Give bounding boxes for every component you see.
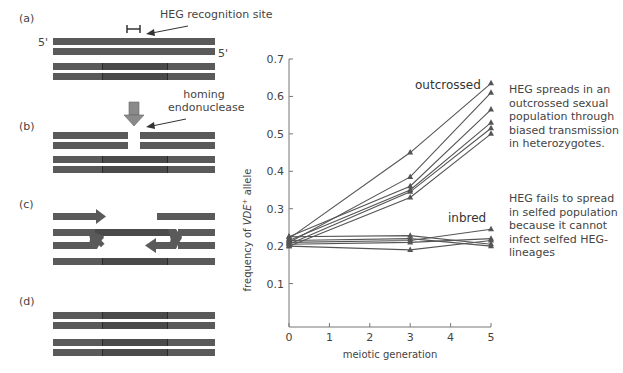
- y-axis-title-prefix: frequency of: [242, 225, 253, 291]
- note-line: HEG fails to spread: [509, 192, 623, 206]
- note-line: population through: [509, 110, 623, 124]
- note-line: because it cannot: [509, 219, 623, 233]
- data-point-outcrossed-4: [488, 119, 494, 125]
- note-line: HEG spreads in an: [509, 83, 623, 97]
- data-point-outcrossed-5: [488, 125, 494, 131]
- note-line: in selfed population: [509, 206, 623, 220]
- note-line: infect selfed HEG-: [509, 233, 623, 247]
- data-point-outcrossed-3: [488, 106, 494, 112]
- y-tick-label: 0.1: [267, 278, 285, 291]
- note-line: outcrossed sexual: [509, 97, 623, 111]
- x-tick-label: 2: [366, 331, 373, 344]
- y-axis-title: frequency of VDE+ allele: [241, 169, 253, 292]
- series-line-outcrossed-6: [289, 134, 491, 246]
- note-outcrossed: HEG spreads in an outcrossed sexual popu…: [509, 83, 623, 151]
- data-point-outcrossed-1: [488, 80, 494, 86]
- x-tick-label: 3: [407, 331, 414, 344]
- y-tick-label: 0.7: [267, 53, 285, 66]
- note-line: biased transmission: [509, 124, 623, 138]
- note-line: lineages: [509, 246, 623, 260]
- y-axis-title-italic: VDE: [242, 204, 253, 226]
- x-tick-label: 1: [326, 331, 333, 344]
- x-tick-label: 5: [488, 331, 495, 344]
- x-tick-label: 0: [286, 331, 293, 344]
- data-point-outcrossed-6: [407, 194, 413, 200]
- y-tick-label: 0.5: [267, 128, 285, 141]
- data-point-outcrossed-6: [488, 130, 494, 136]
- note-inbred: HEG fails to spread in selfed population…: [509, 192, 623, 260]
- series-line-outcrossed-5: [289, 128, 491, 244]
- note-line: in heterozygotes.: [509, 137, 623, 151]
- y-tick-label: 0.3: [267, 203, 285, 216]
- data-point-outcrossed-2: [488, 89, 494, 95]
- y-tick-label: 0.4: [267, 165, 285, 178]
- x-axis-title: meiotic generation: [343, 349, 438, 360]
- y-axis-title-suffix: allele: [242, 169, 253, 199]
- series-label-inbred: inbred: [448, 211, 486, 225]
- x-tick-label: 4: [447, 331, 454, 344]
- data-point-outcrossed-1: [407, 149, 413, 155]
- y-tick-label: 0.2: [267, 240, 285, 253]
- series-label-outcrossed: outcrossed: [415, 78, 481, 92]
- y-tick-label: 0.6: [267, 90, 285, 103]
- data-point-inbred-3: [488, 226, 494, 232]
